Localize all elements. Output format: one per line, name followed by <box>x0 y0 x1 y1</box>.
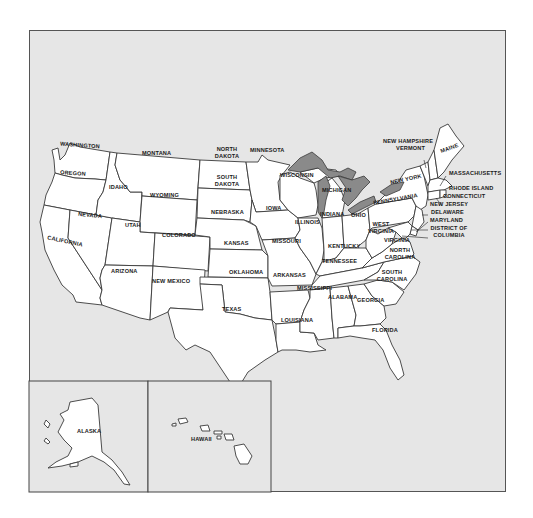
label-georgia: GEORGIA <box>357 297 384 304</box>
label-alabama: ALABAMA <box>328 294 357 301</box>
state-wyoming <box>140 196 197 235</box>
label-tennessee: TENNESSEE <box>322 258 357 265</box>
label-connecticut: CONNECTICUT <box>443 193 485 200</box>
label-florida: FLORIDA <box>372 327 398 334</box>
label-illinois: ILLINOIS <box>295 219 320 226</box>
label-arkansas: ARKANSAS <box>273 272 306 279</box>
hawaii-island-maui <box>224 434 234 440</box>
label-new-mexico: NEW MEXICO <box>152 278 190 285</box>
label-virginia: VIRGINIA <box>384 237 410 244</box>
label-arizona: ARIZONA <box>111 268 138 275</box>
label-minnesota: MINNESOTA <box>250 147 285 154</box>
hawaii-island-niihau <box>172 423 176 426</box>
label-kentucky: KENTUCKY <box>328 243 360 250</box>
label-michigan: MICHIGAN <box>322 187 351 194</box>
label-montana: MONTANA <box>142 150 171 157</box>
label-ohio: OHIO <box>351 212 366 219</box>
label-missouri: MISSOURI <box>272 238 301 245</box>
hawaii-island-oahu <box>200 425 210 431</box>
label-vermont: VERMONT <box>396 145 425 152</box>
label-texas: TEXAS <box>222 306 241 313</box>
label-north-carolina: NORTH CAROLINA <box>384 247 416 260</box>
label-north-dakota: NORTH DAKOTA <box>214 146 240 159</box>
label-district-of-columbia: DISTRICT OF COLUMBIA <box>428 225 470 238</box>
state-colorado <box>153 233 210 271</box>
label-iowa: IOWA <box>266 205 282 212</box>
label-new-jersey: NEW JERSEY <box>430 201 468 208</box>
label-kansas: KANSAS <box>224 240 249 247</box>
label-rhode-island: RHODE ISLAND <box>449 185 493 192</box>
label-colorado: COLORADO <box>162 232 196 239</box>
label-nebraska: NEBRASKA <box>211 209 244 216</box>
label-south-carolina: SOUTH CAROLINA <box>376 269 408 282</box>
label-oklahoma: OKLAHOMA <box>229 269 263 276</box>
hawaii-island-molokai <box>214 431 222 434</box>
label-utah: UTAH <box>125 222 141 229</box>
label-wyoming: WYOMING <box>150 192 179 199</box>
state-connecticut <box>428 190 440 200</box>
label-maryland: MARYLAND <box>430 217 463 224</box>
label-alaska: ALASKA <box>77 428 101 435</box>
label-west-virginia: WEST VIRGINIA <box>368 221 394 234</box>
state-south-dakota <box>197 188 252 222</box>
label-wisconsin: WISCONSIN <box>280 172 314 179</box>
label-mississippi: MISSISSIPPI <box>297 285 332 292</box>
label-new-hampshire: NEW HAMPSHIRE <box>383 138 433 145</box>
label-delaware: DELAWARE <box>431 209 464 216</box>
us-map-svg <box>0 0 533 518</box>
label-hawaii: HAWAII <box>191 436 212 443</box>
hawaii-island-lanai <box>217 436 221 439</box>
label-massachusetts: MASSACHUSETTS <box>449 170 501 177</box>
label-south-dakota: SOUTH DAKOTA <box>214 174 240 187</box>
label-louisiana: LOUISIANA <box>281 317 313 324</box>
label-idaho: IDAHO <box>109 184 128 191</box>
label-indiana: INDIANA <box>320 211 344 218</box>
